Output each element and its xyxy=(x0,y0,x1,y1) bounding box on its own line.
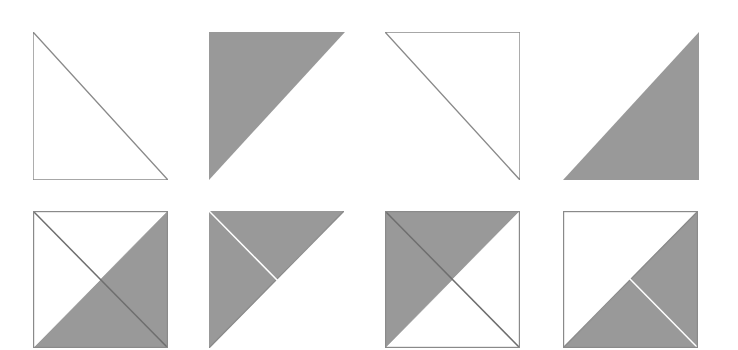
outline-triangle-upper-right-shape xyxy=(385,32,520,180)
quad-square-right-bottom-gray-dark-diagonal-shape xyxy=(33,211,168,348)
triangle-shape xyxy=(385,32,520,180)
outline-triangle-upper-right xyxy=(385,32,520,180)
quad-square-top-left-gray-light-diagonal-shape xyxy=(209,211,344,348)
filled-triangle-lower-right xyxy=(563,32,699,180)
tile-grid xyxy=(0,0,738,350)
quad-square-right-bottom-gray-light-diagonal xyxy=(563,211,698,348)
filled-triangle-upper-left xyxy=(209,32,345,180)
quad-square-top-left-gray-dark-diagonal-shape xyxy=(385,211,520,348)
triangle-shape xyxy=(209,32,345,180)
quad-square-top-left-gray-light-diagonal xyxy=(209,211,344,348)
quad-square-right-bottom-gray-light-diagonal-shape xyxy=(563,211,698,348)
filled-triangle-upper-left-shape xyxy=(209,32,345,180)
quad-square-top-left-gray-dark-diagonal xyxy=(385,211,520,348)
outline-triangle-lower-left xyxy=(33,32,168,180)
triangle-shape xyxy=(563,32,699,180)
filled-triangle-lower-right-shape xyxy=(563,32,699,180)
outline-triangle-lower-left-shape xyxy=(33,32,168,180)
quad-square-right-bottom-gray-dark-diagonal xyxy=(33,211,168,348)
triangle-shape xyxy=(33,32,168,180)
